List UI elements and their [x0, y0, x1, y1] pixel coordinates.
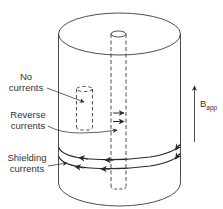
field-subscript: app	[206, 104, 217, 112]
label-applied-field: Bapp	[200, 98, 218, 112]
shielding-arrow-lower-right	[176, 154, 180, 159]
leader-no-currents	[47, 88, 84, 102]
shielding-arrow-lower-2	[75, 167, 84, 169]
leader-shielding-currents	[48, 163, 67, 166]
cylinder-bottom-arc	[59, 183, 181, 206]
label-shielding-currents-line1: Shielding	[7, 152, 46, 163]
shielding-current-loops	[59, 144, 181, 169]
label-reverse-currents-line1: Reverse	[10, 109, 45, 120]
reverse-current-arrows	[113, 113, 124, 122]
leader-lines	[47, 88, 117, 166]
labels: No currents Reverse currents Shielding c…	[7, 71, 217, 174]
diagram: No currents Reverse currents Shielding c…	[0, 0, 223, 209]
central-tube-top	[111, 31, 126, 37]
central-tube-bottom	[111, 186, 126, 189]
cavity-bottom	[77, 126, 93, 130]
label-no-currents-line1: No	[20, 71, 32, 82]
shielding-arrow-upper-right	[176, 145, 180, 150]
label-no-currents-line2: currents	[9, 82, 44, 93]
label-reverse-currents-line2: currents	[11, 120, 46, 131]
inner-cavity-tube	[77, 87, 93, 131]
shielding-arrow-upper-2	[79, 158, 88, 160]
shielding-loop-upper	[59, 144, 181, 160]
cylinder-top-ellipse	[59, 13, 181, 55]
cavity-top	[77, 87, 93, 92]
diagram-canvas: No currents Reverse currents Shielding c…	[0, 0, 223, 209]
label-shielding-currents-line2: currents	[10, 163, 45, 174]
